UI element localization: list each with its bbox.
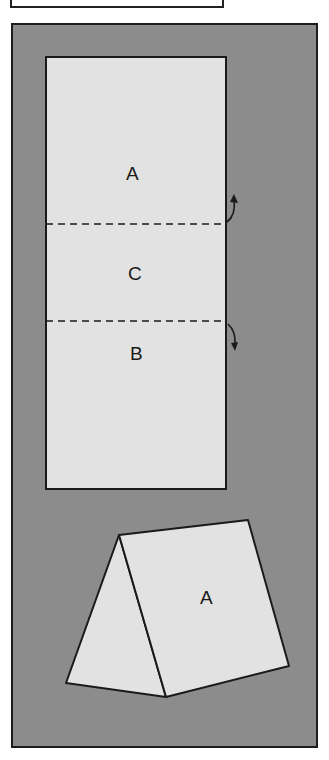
tent-label-a: A bbox=[200, 587, 213, 608]
folding-diagram: A C B A bbox=[0, 0, 329, 760]
fold-down-arrow-icon bbox=[228, 324, 238, 351]
section-label-b: B bbox=[130, 343, 143, 364]
fold-up-arrow-icon bbox=[227, 194, 238, 222]
folded-tent bbox=[66, 520, 289, 697]
section-label-c: C bbox=[128, 263, 142, 284]
section-label-a: A bbox=[126, 163, 139, 184]
